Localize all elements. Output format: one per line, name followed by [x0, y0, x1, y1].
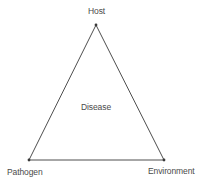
- center-label-disease: Disease: [81, 102, 111, 112]
- vertex-host-dot: [95, 24, 98, 27]
- edge-host-environment: [96, 25, 164, 160]
- vertex-label-pathogen: Pathogen: [7, 167, 43, 177]
- disease-triangle-diagram: Host Pathogen Environment Disease: [0, 0, 203, 184]
- vertex-label-host: Host: [88, 6, 105, 16]
- edge-host-pathogen: [29, 25, 96, 160]
- vertex-pathogen-dot: [28, 159, 31, 162]
- triangle-graphic: [0, 0, 203, 184]
- vertex-label-environment: Environment: [148, 166, 195, 176]
- vertex-environment-dot: [163, 159, 166, 162]
